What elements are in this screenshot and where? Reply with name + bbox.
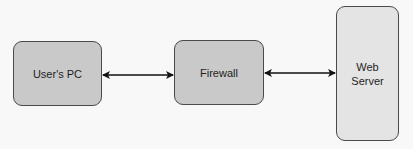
diagram-canvas: User's PC Firewall Web Server xyxy=(0,0,413,149)
edges-layer xyxy=(0,0,413,149)
